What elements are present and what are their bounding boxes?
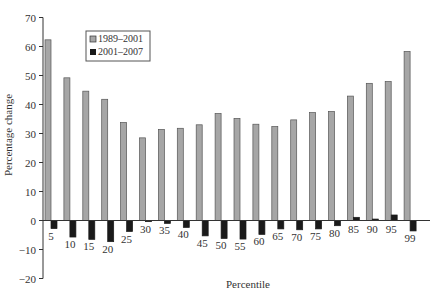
x-tick-label: 15 xyxy=(83,240,95,252)
bar-2001-2007-p5 xyxy=(51,221,57,229)
bar-1989-2001-p99 xyxy=(404,51,410,220)
bar-1989-2001-p60 xyxy=(253,124,259,220)
bar-2001-2007-p55 xyxy=(240,221,246,240)
bar-2001-2007-p20 xyxy=(108,221,114,242)
y-axis-label: Percentage change xyxy=(2,94,14,176)
x-tick-label: 80 xyxy=(329,227,341,239)
x-tick-label: 30 xyxy=(140,223,152,235)
bar-2001-2007-p15 xyxy=(89,221,95,240)
y-tick-label: 70 xyxy=(25,12,37,24)
bar-1989-2001-p85 xyxy=(347,96,353,220)
y-axis: −20−10010203040506070 xyxy=(19,12,43,285)
bar-1989-2001-p20 xyxy=(102,99,108,220)
bar-1989-2001-p25 xyxy=(121,122,127,220)
bar-2001-2007-p10 xyxy=(70,221,76,238)
y-tick-label: 10 xyxy=(25,186,37,198)
bar-2001-2007-p99 xyxy=(410,221,416,231)
bar-1989-2001-p45 xyxy=(196,125,202,221)
y-tick-label: 30 xyxy=(25,128,37,140)
x-tick-label: 5 xyxy=(48,230,54,242)
bar-2001-2007-p25 xyxy=(127,221,133,232)
y-tick-label: 0 xyxy=(31,215,37,227)
bar-1989-2001-p90 xyxy=(366,83,372,220)
x-tick-label: 35 xyxy=(159,224,171,236)
x-tick-label: 95 xyxy=(386,223,398,235)
bar-2001-2007-p60 xyxy=(259,221,265,235)
bar-2001-2007-p80 xyxy=(335,221,341,226)
x-tick-label: 50 xyxy=(216,239,228,251)
bar-1989-2001-p15 xyxy=(83,91,89,220)
x-tick-label: 20 xyxy=(102,243,114,255)
y-tick-label: 60 xyxy=(25,41,37,53)
x-tick-label: 10 xyxy=(64,238,76,250)
bar-1989-2001-p30 xyxy=(140,138,146,221)
bar-1989-2001-p35 xyxy=(158,129,164,220)
y-tick-label: −20 xyxy=(19,273,37,285)
bar-2001-2007-p45 xyxy=(202,221,208,236)
x-tick-label: 55 xyxy=(235,240,247,252)
bar-1989-2001-p10 xyxy=(64,78,70,221)
bar-1989-2001-p95 xyxy=(385,82,391,221)
x-tick-labels: 510152025303540455055606570758085909599 xyxy=(48,223,416,255)
bar-2001-2007-p75 xyxy=(316,221,322,229)
x-tick-label: 90 xyxy=(367,223,379,235)
legend-label-1989-2001: 1989–2001 xyxy=(98,33,143,44)
bar-1989-2001-p55 xyxy=(234,118,240,220)
bar-2001-2007-p70 xyxy=(297,221,303,230)
bar-2001-2007-p40 xyxy=(183,221,189,228)
x-tick-label: 70 xyxy=(291,231,303,243)
bar-chart: −20−10010203040506070 510152025303540455… xyxy=(0,0,435,293)
bars xyxy=(45,40,416,242)
bar-1989-2001-p50 xyxy=(215,113,221,220)
x-tick-label: 75 xyxy=(310,230,322,242)
y-tick-label: 20 xyxy=(25,157,37,169)
bar-1989-2001-p5 xyxy=(45,40,51,221)
bar-2001-2007-p95 xyxy=(391,215,397,221)
y-tick-label: 50 xyxy=(25,70,37,82)
bar-1989-2001-p65 xyxy=(272,127,278,221)
bar-1989-2001-p80 xyxy=(329,111,335,220)
x-tick-label: 40 xyxy=(178,228,190,240)
x-tick-label: 45 xyxy=(197,237,209,249)
y-tick-label: 40 xyxy=(25,99,37,111)
x-tick-label: 65 xyxy=(272,230,284,242)
legend-label-2001-2007: 2001–2007 xyxy=(98,46,143,57)
legend: 1989–2001 2001–2007 xyxy=(86,31,150,61)
x-tick-label: 60 xyxy=(253,235,265,247)
bar-2001-2007-p50 xyxy=(221,221,227,239)
y-tick-label: −10 xyxy=(19,244,37,256)
x-tick-label: 85 xyxy=(348,223,360,235)
legend-swatch-2001-2007 xyxy=(90,49,96,55)
x-tick-label: 25 xyxy=(121,233,133,245)
bar-1989-2001-p75 xyxy=(310,113,316,221)
x-tick-label: 99 xyxy=(405,232,417,244)
bar-1989-2001-p40 xyxy=(177,128,183,220)
legend-swatch-1989-2001 xyxy=(90,36,96,42)
bar-1989-2001-p70 xyxy=(291,120,297,221)
bar-2001-2007-p65 xyxy=(278,221,284,229)
x-axis-label: Percentile xyxy=(226,278,270,290)
